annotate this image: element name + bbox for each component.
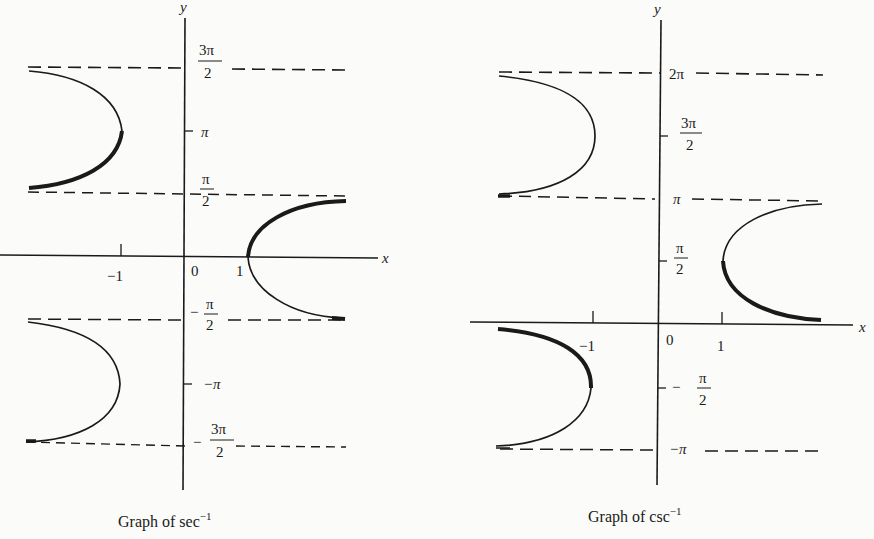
sec-label-neg-pi: −π bbox=[203, 376, 221, 392]
sec-x-label: x bbox=[381, 250, 389, 266]
csc-label-neg1: −1 bbox=[579, 338, 595, 354]
sec-asymptote-3pi-2 bbox=[28, 67, 185, 68]
csc-x-label: x bbox=[858, 319, 866, 335]
sec-asymptote-3pi-2-right bbox=[232, 69, 348, 70]
csc-asymptote-neg-pi bbox=[500, 449, 656, 450]
csc-asymptote-2pi-right bbox=[696, 73, 823, 75]
csc-asymptote-2pi bbox=[499, 72, 660, 73]
csc-branch-principal-thin bbox=[723, 204, 822, 261]
csc-x-axis bbox=[470, 322, 853, 325]
csc-asymptote-pi-right bbox=[692, 199, 822, 201]
sec-branch-upper-thin bbox=[29, 71, 122, 131]
csc-label-1: 1 bbox=[717, 338, 725, 354]
sec-label-pi2-den: 2 bbox=[202, 193, 210, 209]
csc-label-3pi-num: 3π bbox=[681, 115, 697, 131]
csc-y-label: y bbox=[652, 1, 661, 17]
sec-label-pi2-num: π bbox=[202, 171, 210, 187]
csc-caption: Graph of csc−1 bbox=[588, 505, 681, 526]
sec-label-npi2-num: π bbox=[206, 296, 214, 312]
sec-branch-principal-bold bbox=[248, 201, 346, 257]
csc-label-0: 0 bbox=[666, 332, 674, 348]
sec-y-axis bbox=[183, 18, 185, 490]
sec-y-label: y bbox=[178, 0, 187, 15]
sec-label-neg-sign-1: − bbox=[190, 304, 198, 320]
csc-asymptote-pi bbox=[500, 196, 655, 199]
sec-branch-lower bbox=[26, 322, 120, 442]
csc-y-axis bbox=[657, 20, 661, 485]
csc-label-pi2-num: π bbox=[676, 240, 684, 256]
sec-label-3pi-num: 3π bbox=[199, 42, 215, 58]
sec-label-n3pi-num: 3π bbox=[211, 421, 227, 437]
sec-asymptote-neg-3pi-2 bbox=[26, 442, 185, 446]
sec-label-neg1: −1 bbox=[107, 268, 123, 284]
sec-label-1: 1 bbox=[236, 263, 244, 279]
csc-label-pi: π bbox=[673, 191, 681, 207]
sec-label-n3pi-den: 2 bbox=[216, 444, 224, 460]
inverse-trig-graphs: y x −1 0 1 3π 2 π π 2 − π 2 −π − 3π 2 Gr… bbox=[0, 0, 874, 539]
sec-asymptote-neg-pi-2 bbox=[28, 319, 185, 320]
sec-asymptote-pi-2 bbox=[28, 192, 345, 196]
csc-branch-lower-bold bbox=[498, 329, 591, 388]
csc-branch-upper bbox=[499, 76, 595, 194]
sec-branch-upper-bold bbox=[29, 131, 122, 188]
csc-label-npi2-num: π bbox=[699, 370, 707, 386]
csc-label-2pi: 2π bbox=[669, 66, 685, 82]
sec-label-0: 0 bbox=[191, 263, 199, 279]
sec-label-neg-sign-2: − bbox=[193, 434, 201, 450]
csc-inverse-graph bbox=[470, 20, 853, 485]
csc-label-pi2-den: 2 bbox=[676, 261, 684, 277]
sec-label-npi2-den: 2 bbox=[206, 317, 214, 333]
csc-label-neg-sign: − bbox=[672, 379, 680, 395]
csc-label-3pi-den: 2 bbox=[686, 137, 694, 153]
sec-label-pi: π bbox=[201, 124, 209, 140]
sec-inverse-graph bbox=[0, 18, 378, 490]
csc-branch-lower-thin bbox=[496, 388, 591, 446]
sec-asymptote-neg-3pi-2-right bbox=[236, 446, 346, 447]
sec-x-axis bbox=[0, 255, 378, 258]
sec-caption: Graph of sec−1 bbox=[118, 510, 211, 531]
sec-label-3pi-den: 2 bbox=[204, 65, 212, 81]
sec-branch-principal-thin bbox=[248, 257, 343, 318]
sec-labels: y x −1 0 1 3π 2 π π 2 − π 2 −π − 3π 2 Gr… bbox=[107, 0, 389, 531]
csc-branch-principal-bold bbox=[723, 261, 821, 320]
csc-label-neg-pi: −π bbox=[669, 441, 687, 457]
csc-label-npi2-den: 2 bbox=[699, 392, 707, 408]
